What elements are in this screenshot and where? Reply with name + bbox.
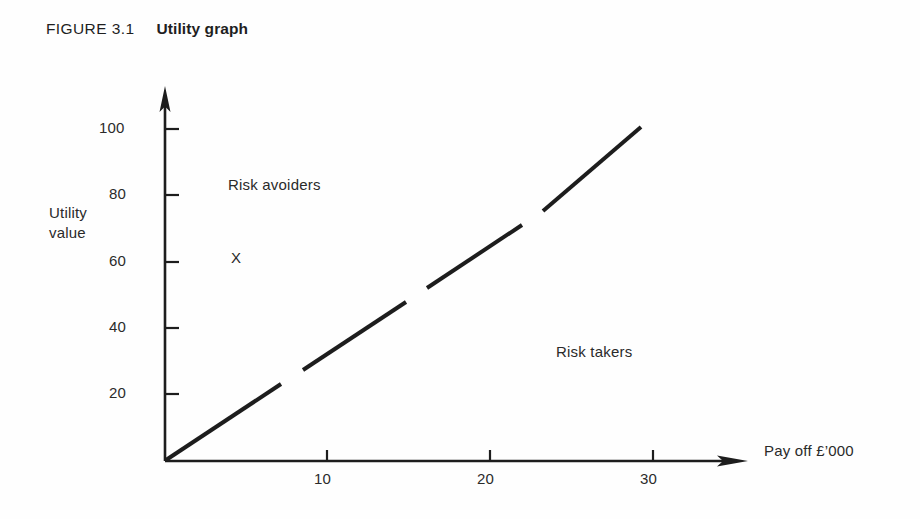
utility-line-segment-3	[427, 225, 522, 288]
figure-container: FIGURE 3.1Utility graph	[0, 0, 920, 519]
y-axis-title-line-2: value	[49, 223, 87, 243]
utility-line-segment-4	[543, 127, 641, 211]
y-tick-label-40: 40	[109, 318, 126, 335]
utility-line-segment-1	[166, 384, 281, 460]
x-axis-ticks	[327, 450, 653, 461]
x-axis-title: Pay off £’000	[764, 441, 854, 461]
x-tick-label-30: 30	[640, 470, 657, 487]
y-axis-title: Utility value	[49, 203, 87, 243]
annotation-risk-takers: Risk takers	[556, 343, 632, 360]
annotation-risk-avoiders: Risk avoiders	[228, 176, 321, 193]
x-tick-label-20: 20	[477, 470, 494, 487]
x-tick-label-10: 10	[314, 470, 331, 487]
y-tick-label-60: 60	[109, 252, 126, 269]
y-tick-label-80: 80	[109, 185, 126, 202]
data-point-marker-x: X	[231, 249, 241, 266]
y-tick-label-20: 20	[109, 384, 126, 401]
y-tick-label-100: 100	[99, 119, 125, 136]
y-axis-title-line-1: Utility	[49, 203, 87, 223]
y-axis-ticks	[165, 129, 179, 394]
utility-line-segment-2	[303, 302, 406, 370]
